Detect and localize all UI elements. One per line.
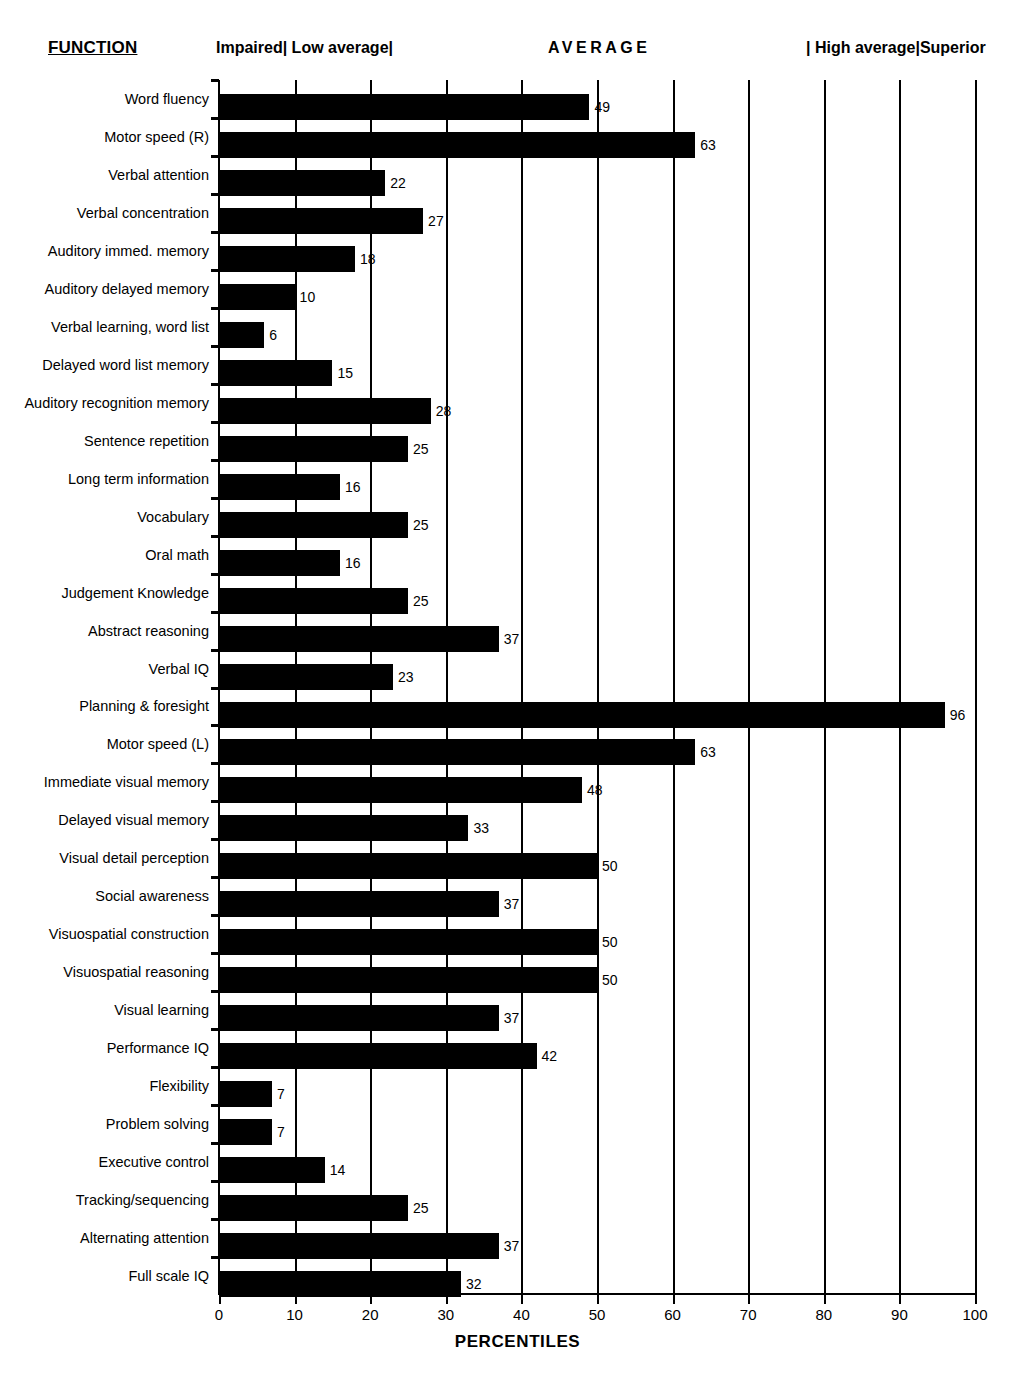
row-tick <box>211 876 219 879</box>
row-label: Long term information <box>68 471 209 487</box>
row-tick <box>211 345 219 348</box>
row-label: Verbal IQ <box>149 661 209 677</box>
tick-70 <box>748 1295 750 1304</box>
bar-row: Auditory immed. memory18 <box>219 232 975 270</box>
bar-value-label: 63 <box>700 744 716 760</box>
bar-row: Full scale IQ32 <box>219 1257 975 1295</box>
bar-value-label: 25 <box>413 593 429 609</box>
x-axis-title: PERCENTILES <box>0 1332 1035 1352</box>
tick-label-40: 40 <box>491 1306 551 1323</box>
bar-value-label: 32 <box>466 1276 482 1292</box>
row-tick <box>211 990 219 993</box>
tick-100 <box>975 1295 977 1304</box>
row-tick <box>211 497 219 500</box>
tick-label-0: 0 <box>189 1306 249 1323</box>
row-label: Immediate visual memory <box>44 774 209 790</box>
gridline-100 <box>975 80 977 1295</box>
row-tick <box>211 383 219 386</box>
bar-value-label: 37 <box>504 896 520 912</box>
bar-row: Immediate visual memory48 <box>219 763 975 801</box>
row-label: Alternating attention <box>80 1230 209 1246</box>
bar: 28 <box>219 398 431 424</box>
bar: 50 <box>219 967 597 993</box>
bar-row: Performance IQ42 <box>219 1029 975 1067</box>
bar-value-label: 7 <box>277 1086 285 1102</box>
row-label: Auditory immed. memory <box>48 243 209 259</box>
bar: 25 <box>219 436 408 462</box>
bar-row: Verbal learning, word list6 <box>219 308 975 346</box>
bar: 27 <box>219 208 423 234</box>
row-tick <box>211 307 219 310</box>
row-tick <box>211 1028 219 1031</box>
tick-50 <box>597 1295 599 1304</box>
bar-row: Motor speed (R)63 <box>219 118 975 156</box>
bar-row: Planning & foresight96 <box>219 688 975 726</box>
bar: 15 <box>219 360 332 386</box>
bar-value-label: 42 <box>542 1048 558 1064</box>
row-label: Verbal attention <box>108 167 209 183</box>
row-tick <box>211 838 219 841</box>
row-tick <box>211 459 219 462</box>
band-header: FUNCTION Impaired| Low average| AVERAGE … <box>0 38 1035 70</box>
bar-row: Judgement Knowledge25 <box>219 574 975 612</box>
row-label: Delayed word list memory <box>42 357 209 373</box>
row-tick <box>211 573 219 576</box>
bar: 63 <box>219 132 695 158</box>
bar: 7 <box>219 1081 272 1107</box>
band-label-impaired-low-average: Impaired| Low average| <box>216 39 393 57</box>
bar-row: Long term information16 <box>219 460 975 498</box>
bar: 7 <box>219 1119 272 1145</box>
row-tick <box>211 193 219 196</box>
row-label: Auditory delayed memory <box>45 281 209 297</box>
tick-90 <box>899 1295 901 1304</box>
tick-80 <box>824 1295 826 1304</box>
bar-row: Verbal attention22 <box>219 156 975 194</box>
bar: 50 <box>219 853 597 879</box>
row-label: Judgement Knowledge <box>61 585 209 601</box>
bar-value-label: 28 <box>436 403 452 419</box>
row-tick <box>211 1142 219 1145</box>
row-tick <box>211 421 219 424</box>
row-tick <box>211 1256 219 1259</box>
bar-value-label: 50 <box>602 934 618 950</box>
bar: 50 <box>219 929 597 955</box>
bar-row: Verbal IQ23 <box>219 650 975 688</box>
bar: 18 <box>219 246 355 272</box>
bar-row: Visual learning37 <box>219 991 975 1029</box>
bar: 25 <box>219 588 408 614</box>
bar-value-label: 25 <box>413 1200 429 1216</box>
row-tick <box>211 79 219 82</box>
bar: 33 <box>219 815 468 841</box>
bar-value-label: 14 <box>330 1162 346 1178</box>
bar-value-label: 25 <box>413 441 429 457</box>
bar-chart-plot-area: Word fluency49Motor speed (R)63Verbal at… <box>219 80 975 1295</box>
row-label: Performance IQ <box>107 1040 209 1056</box>
row-tick <box>211 762 219 765</box>
row-tick <box>211 914 219 917</box>
row-label: Visual learning <box>114 1002 209 1018</box>
row-label: Abstract reasoning <box>88 623 209 639</box>
bar-row: Delayed visual memory33 <box>219 801 975 839</box>
bar: 22 <box>219 170 385 196</box>
tick-label-90: 90 <box>869 1306 929 1323</box>
bar-value-label: 49 <box>594 99 610 115</box>
bar-row: Visuospatial construction50 <box>219 915 975 953</box>
row-tick <box>211 1104 219 1107</box>
bar-row: Visual detail perception50 <box>219 839 975 877</box>
row-label: Motor speed (R) <box>104 129 209 145</box>
bar: 14 <box>219 1157 325 1183</box>
bar-row: Sentence repetition25 <box>219 422 975 460</box>
bar-row: Flexibility7 <box>219 1067 975 1105</box>
row-tick <box>211 649 219 652</box>
row-label: Flexibility <box>149 1078 209 1094</box>
row-label: Delayed visual memory <box>58 812 209 828</box>
row-label: Auditory recognition memory <box>24 395 209 411</box>
row-label: Social awareness <box>95 888 209 904</box>
bar: 42 <box>219 1043 537 1069</box>
tick-label-30: 30 <box>416 1306 476 1323</box>
bar: 96 <box>219 702 945 728</box>
bar-value-label: 6 <box>269 327 277 343</box>
bar: 37 <box>219 891 499 917</box>
row-label: Planning & foresight <box>79 698 209 714</box>
row-tick <box>211 155 219 158</box>
